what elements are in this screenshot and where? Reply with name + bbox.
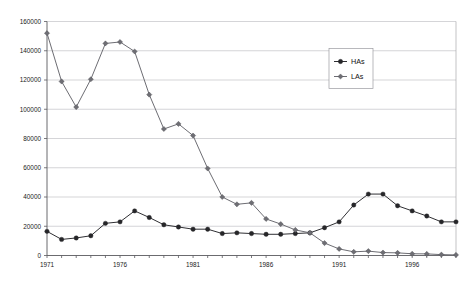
y-axis-tick-label: 160000 bbox=[20, 18, 42, 25]
data-point-las bbox=[205, 166, 210, 171]
data-point-has bbox=[454, 220, 458, 224]
x-axis-tick-label: 1996 bbox=[405, 261, 420, 268]
y-axis-tick-label: 100000 bbox=[20, 106, 42, 113]
data-point-has bbox=[45, 229, 49, 233]
y-axis-tick-label: 0 bbox=[37, 252, 41, 259]
x-axis-ticks: 197119761981198619911996 bbox=[40, 256, 456, 269]
data-point-has bbox=[439, 220, 443, 224]
data-point-las bbox=[132, 49, 137, 54]
data-point-has bbox=[249, 231, 253, 235]
data-point-las bbox=[439, 252, 444, 257]
data-point-las bbox=[234, 202, 239, 207]
data-series bbox=[44, 31, 458, 258]
data-point-has bbox=[322, 226, 326, 230]
chart-legend: HAsLAs bbox=[329, 49, 373, 89]
data-point-las bbox=[117, 39, 122, 44]
data-point-las bbox=[74, 104, 79, 109]
data-point-las bbox=[453, 252, 458, 257]
x-axis-tick-label: 1986 bbox=[259, 261, 274, 268]
data-point-las bbox=[103, 41, 108, 46]
data-point-las bbox=[380, 250, 385, 255]
legend-box bbox=[329, 49, 373, 89]
data-point-has bbox=[147, 215, 151, 219]
y-axis-tick-label: 120000 bbox=[20, 76, 42, 83]
x-axis-tick-label: 1976 bbox=[113, 261, 128, 268]
y-axis-tick-label: 20000 bbox=[23, 223, 41, 230]
legend-label-las: LAs bbox=[351, 72, 364, 81]
data-point-las bbox=[220, 194, 225, 199]
data-point-has bbox=[191, 227, 195, 231]
data-point-has bbox=[352, 203, 356, 207]
y-axis-ticks: 0200004000060000800001000001200001400001… bbox=[20, 18, 47, 259]
y-axis-tick-label: 140000 bbox=[20, 47, 42, 54]
data-point-las bbox=[293, 227, 298, 232]
data-point-has bbox=[176, 225, 180, 229]
data-point-las bbox=[337, 246, 342, 251]
line-chart: 0200004000060000800001000001200001400001… bbox=[0, 0, 464, 286]
data-point-las bbox=[278, 221, 283, 226]
data-point-has bbox=[132, 209, 136, 213]
data-point-las bbox=[147, 92, 152, 97]
gridlines bbox=[47, 22, 456, 227]
data-point-has bbox=[205, 227, 209, 231]
data-point-has bbox=[425, 214, 429, 218]
data-point-las bbox=[161, 126, 166, 131]
data-point-has bbox=[220, 231, 224, 235]
data-point-has bbox=[279, 232, 283, 236]
data-point-has bbox=[103, 221, 107, 225]
data-point-has bbox=[337, 220, 341, 224]
data-point-las bbox=[395, 250, 400, 255]
data-point-has bbox=[59, 237, 63, 241]
legend-label-has: HAs bbox=[351, 57, 365, 66]
chart-container: 0200004000060000800001000001200001400001… bbox=[0, 0, 464, 286]
x-axis-tick-label: 1971 bbox=[40, 261, 55, 268]
data-point-has bbox=[410, 209, 414, 213]
data-point-las bbox=[366, 249, 371, 254]
data-point-has bbox=[264, 232, 268, 236]
data-point-las bbox=[351, 249, 356, 254]
data-point-las bbox=[59, 79, 64, 84]
data-point-has bbox=[118, 220, 122, 224]
legend-marker-has bbox=[338, 59, 342, 63]
data-point-has bbox=[366, 192, 370, 196]
y-axis-tick-label: 80000 bbox=[23, 135, 41, 142]
x-axis-tick-label: 1991 bbox=[332, 261, 347, 268]
series-line-las bbox=[47, 33, 456, 255]
data-point-las bbox=[88, 77, 93, 82]
y-axis-tick-label: 60000 bbox=[23, 164, 41, 171]
data-point-has bbox=[395, 204, 399, 208]
data-point-has bbox=[89, 234, 93, 238]
data-point-las bbox=[44, 31, 49, 36]
data-point-has bbox=[74, 236, 78, 240]
x-axis-tick-label: 1981 bbox=[186, 261, 201, 268]
data-point-has bbox=[235, 231, 239, 235]
data-point-has bbox=[162, 223, 166, 227]
data-point-has bbox=[381, 192, 385, 196]
y-axis-tick-label: 40000 bbox=[23, 193, 41, 200]
